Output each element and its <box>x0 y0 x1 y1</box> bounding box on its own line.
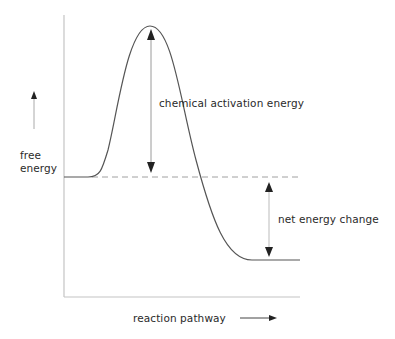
activation-energy-label: chemical activation energy <box>159 97 304 110</box>
net-energy-change-label: net energy change <box>278 213 379 226</box>
activation-energy-arrow <box>147 29 155 173</box>
energy-diagram <box>0 0 395 339</box>
arrow-down-icon <box>147 162 155 173</box>
y-axis-label-line2: energy <box>20 162 57 175</box>
net-energy-change-arrow <box>265 182 273 257</box>
energy-curve <box>64 26 300 260</box>
arrow-up-icon <box>147 29 155 40</box>
y-axis-direction-arrow <box>31 91 37 129</box>
x-axis-label: reaction pathway <box>133 312 226 325</box>
arrow-down-icon <box>265 247 273 257</box>
arrow-up-icon <box>31 91 37 99</box>
x-axis-direction-arrow <box>240 315 277 321</box>
arrow-up-icon <box>265 182 273 192</box>
y-axis-label-line1: free <box>20 149 41 162</box>
arrow-right-icon <box>269 315 277 321</box>
